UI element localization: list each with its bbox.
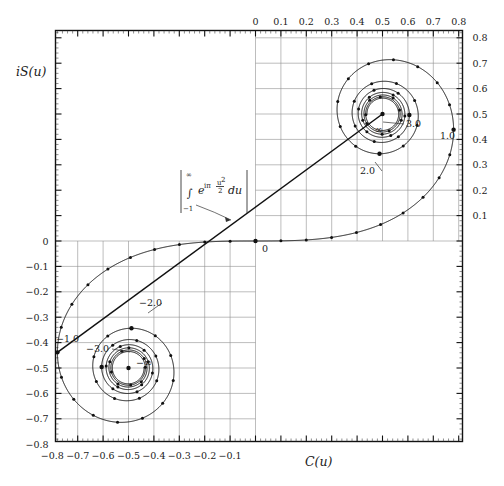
left-tick-8: −0.8 xyxy=(25,439,48,450)
label-l-2: −2.0 xyxy=(139,297,162,308)
bottom-tick-1: −0.7 xyxy=(66,450,89,461)
curve-marker xyxy=(111,387,114,390)
curve-marker xyxy=(413,99,416,102)
right-tick-3: 0.5 xyxy=(473,109,488,120)
curve-marker xyxy=(153,248,156,251)
label-u-2: 2.0 xyxy=(360,165,375,176)
grid-lines xyxy=(56,31,463,442)
left-tick-1: −0.1 xyxy=(25,261,48,272)
curve-marker xyxy=(305,238,308,241)
exponent-ipi: iπ xyxy=(204,182,211,190)
curve-marker xyxy=(151,371,154,374)
curve-marker xyxy=(135,339,138,342)
cornu-spiral-chart: 00.10.20.30.40.50.60.70.80.80.70.60.50.4… xyxy=(0,0,504,486)
curve-marker xyxy=(355,231,358,234)
origin-label: 0 xyxy=(262,243,268,254)
top-tick-2: 0.2 xyxy=(299,16,314,27)
frac-superscript: 2 xyxy=(221,176,225,184)
curve-marker xyxy=(422,196,425,199)
curve-marker xyxy=(389,134,392,137)
curve-marker xyxy=(379,95,382,98)
curve-marker xyxy=(95,380,98,383)
curve-marker xyxy=(229,240,232,243)
curve-marker xyxy=(129,384,132,387)
curve-marker xyxy=(438,176,441,179)
curve-marker xyxy=(402,144,405,147)
bottom-tick-5: −0.3 xyxy=(168,450,191,461)
label-l-3: −3.0 xyxy=(86,343,109,354)
right-tick-7: 0.1 xyxy=(473,210,488,221)
bottom-tick-6: −0.2 xyxy=(193,450,216,461)
curve-marker xyxy=(402,211,405,214)
curve-marker xyxy=(92,414,95,417)
curve-marker xyxy=(70,303,73,306)
spiral-focus-upper xyxy=(380,112,384,116)
curve-marker xyxy=(86,283,89,286)
curve-marker xyxy=(395,82,398,85)
curve-marker xyxy=(364,113,367,116)
curve-marker xyxy=(110,371,113,374)
x-axis-title: C(u) xyxy=(305,454,332,469)
curve-marker xyxy=(436,81,439,84)
top-tick-5: 0.5 xyxy=(375,16,390,27)
label-l-inf: −∞ xyxy=(136,357,152,368)
left-tick-5: −0.5 xyxy=(25,363,48,374)
left-tick-6: −0.6 xyxy=(25,388,48,399)
top-tick-8: 0.8 xyxy=(451,16,466,27)
curve-marker xyxy=(169,354,172,357)
curve-marker xyxy=(116,421,119,424)
curve-marker xyxy=(116,386,119,389)
bottom-tick-7: −0.1 xyxy=(219,450,242,461)
curve-marker xyxy=(140,383,143,386)
bottom-tick-0: −0.8 xyxy=(41,450,64,461)
curve-marker xyxy=(388,129,391,132)
right-tick-4: 0.4 xyxy=(473,134,488,145)
bottom-tick-2: −0.6 xyxy=(92,450,115,461)
axis-tick-labels: 00.10.20.30.40.50.60.70.80.80.70.60.50.4… xyxy=(25,16,487,461)
top-tick-3: 0.3 xyxy=(324,16,339,27)
curve-marker xyxy=(111,344,114,347)
curve-marker xyxy=(448,153,451,156)
right-tick-2: 0.6 xyxy=(473,83,488,94)
curve-marker xyxy=(172,379,175,382)
curve-marker xyxy=(353,100,356,103)
annotated-point xyxy=(99,365,103,369)
curve-marker xyxy=(113,397,116,400)
curve-marker xyxy=(105,365,108,368)
curve-marker xyxy=(108,360,111,363)
curve-marker xyxy=(370,82,373,85)
curve-marker xyxy=(129,256,132,259)
annotated-point xyxy=(55,350,59,354)
annotated-point xyxy=(129,326,133,330)
curve-marker xyxy=(354,124,357,127)
top-tick-6: 0.6 xyxy=(400,16,415,27)
left-tick-2: −0.2 xyxy=(25,286,48,297)
top-tick-1: 0.1 xyxy=(273,16,288,27)
curve-marker xyxy=(60,376,63,379)
curve-marker xyxy=(367,62,370,65)
curve-marker xyxy=(161,402,164,405)
curve-marker xyxy=(92,355,95,358)
annotated-point xyxy=(377,152,381,156)
top-tick-0: 0 xyxy=(252,16,258,27)
integral-upper-limit: ∞ xyxy=(186,171,192,179)
bottom-tick-3: −0.5 xyxy=(117,450,140,461)
curve-marker xyxy=(154,355,157,358)
curve-marker xyxy=(368,99,371,102)
curve-marker xyxy=(72,398,75,401)
integral-annotation: ∫ ∞ −1 e iπ u 2 2 du xyxy=(181,170,247,222)
curve-marker xyxy=(372,89,375,92)
curve-marker xyxy=(365,122,368,125)
right-tick-0: 0.8 xyxy=(473,32,488,43)
annotated-point xyxy=(253,239,257,243)
curve-marker xyxy=(119,345,122,348)
figure-page: 00.10.20.30.40.50.60.70.80.80.70.60.50.4… xyxy=(0,0,504,486)
curve-marker xyxy=(397,135,400,138)
frac-denominator: 2 xyxy=(218,187,222,195)
curve-marker xyxy=(392,93,395,96)
annotated-point xyxy=(407,113,411,117)
curve-marker xyxy=(116,383,119,386)
curve-marker xyxy=(365,130,368,133)
curve-marker xyxy=(368,96,371,99)
curve-marker xyxy=(138,397,141,400)
